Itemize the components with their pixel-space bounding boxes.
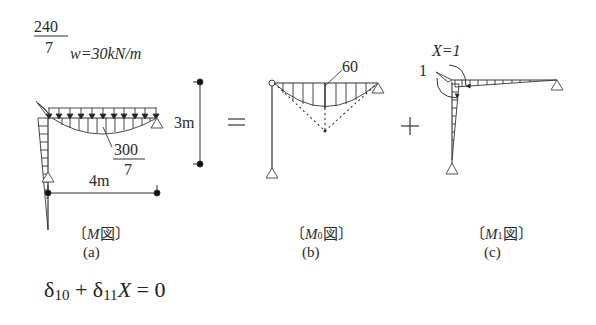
caption-a-suffix: 図 xyxy=(100,226,115,242)
sublabel-c: (c) xyxy=(484,244,501,261)
caption-c-suffix: 図 xyxy=(503,226,518,242)
dashed-triangle-b xyxy=(274,83,378,131)
caption-a-open: 〔 xyxy=(72,226,87,242)
eq-plus: + xyxy=(75,277,87,302)
pin-support-c-bottom xyxy=(446,163,458,174)
peak-moment-label: 60 xyxy=(342,58,358,76)
sublabel-a: (a) xyxy=(83,244,100,261)
plus-sign xyxy=(401,117,419,135)
caption-a: 〔M図〕 xyxy=(72,222,130,243)
caption-c-open: 〔 xyxy=(470,226,485,242)
load-label-text: w=30kN/m xyxy=(70,45,141,62)
height-label: 3m xyxy=(174,114,194,132)
eq-var-x: X xyxy=(118,277,131,302)
caption-c: 〔M1図〕 xyxy=(470,222,533,243)
eq-delta-1: δ xyxy=(44,277,54,302)
redundant-load-label: X=1 xyxy=(432,42,461,60)
caption-a-close: 〕 xyxy=(115,226,130,242)
caption-c-close: 〕 xyxy=(518,226,533,242)
pin-support-a-right xyxy=(151,118,163,128)
compatibility-equation: δ10 + δ11X = 0 xyxy=(44,277,166,304)
caption-c-symbol: M xyxy=(485,226,498,242)
equals-sign xyxy=(228,119,245,125)
caption-b-close: 〕 xyxy=(338,226,353,242)
moment-diagram-beam-b xyxy=(274,70,378,108)
caption-b: 〔M0図〕 xyxy=(290,222,353,243)
moment-diagram-column-c xyxy=(436,72,459,160)
eq-index-11: 11 xyxy=(103,287,117,303)
figure-c-frame xyxy=(452,80,557,168)
eq-delta-2: δ xyxy=(93,277,103,302)
pin-support-b-right xyxy=(372,83,384,93)
moment-top-denominator: 7 xyxy=(45,39,53,57)
pin-support-c-right xyxy=(551,80,563,90)
unit-moment-label: 1 xyxy=(419,62,427,80)
caption-a-symbol: M xyxy=(87,226,100,242)
dashed-apex-b xyxy=(324,130,327,133)
moment-diagram-beam-a xyxy=(52,118,157,147)
moment-mid-denominator: 7 xyxy=(124,161,132,179)
moment-mid-numerator: 300 xyxy=(114,141,138,159)
dimension-height-3m xyxy=(193,79,203,167)
eq-index-10: 10 xyxy=(54,287,69,303)
distributed-load-arrows xyxy=(46,108,159,119)
caption-b-suffix: 図 xyxy=(323,226,338,242)
span-label: 4m xyxy=(89,172,109,190)
pin-support-a-bottom xyxy=(42,172,54,182)
eq-equals-zero: = 0 xyxy=(137,277,166,302)
pin-support-b-bottom xyxy=(266,168,278,178)
caption-b-open: 〔 xyxy=(290,226,305,242)
moment-top-numerator: 240 xyxy=(34,18,58,36)
caption-b-symbol: M xyxy=(305,226,318,242)
sublabel-b: (b) xyxy=(302,244,320,261)
load-label: w=30kN/m xyxy=(70,45,141,63)
moment-diagram-beam-c xyxy=(455,80,557,87)
